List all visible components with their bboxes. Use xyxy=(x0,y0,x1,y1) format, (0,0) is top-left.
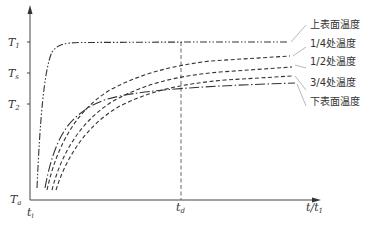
x-label-ti: ti xyxy=(27,206,34,220)
legend-quarter-depth: 1/4处温度 xyxy=(310,37,356,49)
curve-half-depth xyxy=(52,67,292,190)
axes xyxy=(30,12,314,200)
legend-bottom-surface: 下表面温度 xyxy=(310,95,360,107)
y-label-T1: T1 xyxy=(8,36,20,50)
temperature-chart: T1 Ts T2 Ta ti td t/t1 上表面温度 1/4处温度 1/2处… xyxy=(0,0,368,226)
curve-bottom-surface xyxy=(45,83,295,188)
curve-quarter-depth xyxy=(47,56,290,190)
legend-top-surface: 上表面温度 xyxy=(310,18,360,30)
legend-three-quarter-depth: 3/4处温度 xyxy=(310,76,356,88)
x-label-td: td xyxy=(176,201,185,215)
x-axis-title: t/t1 xyxy=(306,201,323,215)
y-label-T2: T2 xyxy=(8,98,20,112)
y-axis-arrow-icon xyxy=(28,5,33,14)
y-label-Ts: Ts xyxy=(8,67,19,81)
legend-half-depth: 1/2处温度 xyxy=(310,55,356,67)
y-label-Ta: Ta xyxy=(10,193,22,207)
curve-top-surface xyxy=(37,42,288,188)
curve-three-quarter-depth xyxy=(56,76,292,190)
